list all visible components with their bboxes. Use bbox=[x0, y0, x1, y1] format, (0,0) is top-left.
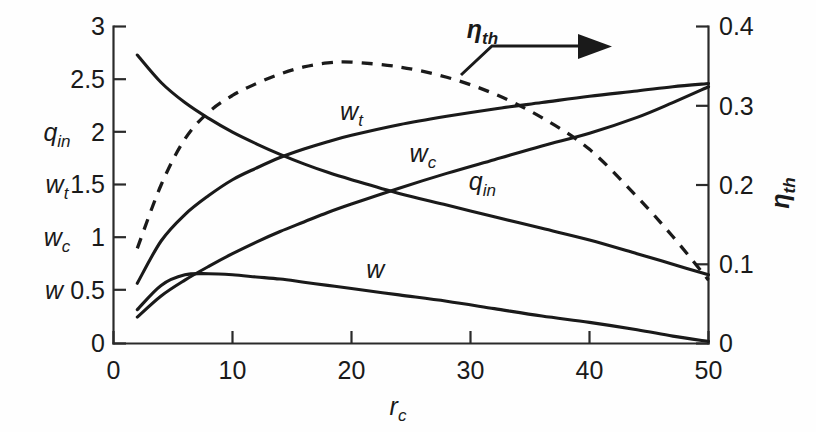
axis-title-rc-sub: c bbox=[398, 406, 407, 425]
curve-label-wt-sub: t bbox=[358, 111, 364, 130]
curve-label-qin-sub: in bbox=[483, 181, 496, 200]
ticks-right bbox=[696, 27, 709, 344]
ytick-right-0p1: 0.1 bbox=[719, 250, 754, 278]
curve-eta-th bbox=[137, 62, 708, 280]
curve-label-eta-th: ηth bbox=[467, 15, 498, 48]
axis-title-wt-sub: t bbox=[64, 184, 70, 203]
ytick-left-0p5: 0.5 bbox=[70, 276, 105, 304]
axis-title-left-stack: qin wt wc w bbox=[43, 118, 70, 304]
curve-label-wt-base: w bbox=[340, 97, 360, 125]
xtick-30: 30 bbox=[457, 356, 485, 384]
curve-w-t bbox=[137, 84, 708, 284]
axis-title-qin-base: q bbox=[43, 118, 57, 146]
axis-title-eta-base: η bbox=[766, 193, 794, 208]
axis-title-wt: wt bbox=[46, 170, 70, 203]
tick-labels-bottom: 0 10 20 30 40 50 bbox=[107, 356, 723, 384]
xtick-40: 40 bbox=[576, 356, 604, 384]
ytick-right-0p2: 0.2 bbox=[719, 171, 754, 199]
ytick-left-2: 2 bbox=[91, 118, 105, 146]
axis-title-right: ηth bbox=[766, 177, 799, 208]
chart-plot-area: 3 2.5 2 1.5 1 0.5 0 0.4 0.3 0.2 0.1 0 0 … bbox=[0, 0, 816, 432]
arrow-head-icon bbox=[578, 34, 612, 59]
curve-w bbox=[137, 274, 708, 342]
ticks-bottom bbox=[114, 331, 709, 344]
axis-title-w: w bbox=[45, 276, 65, 304]
ytick-left-1: 1 bbox=[91, 223, 105, 251]
axis-title-wc-sub: c bbox=[62, 237, 71, 256]
axis-title-wc-base: w bbox=[44, 223, 64, 251]
curve-label-eta-base: η bbox=[467, 15, 482, 43]
ytick-left-1p5: 1.5 bbox=[70, 170, 105, 198]
xtick-50: 50 bbox=[695, 356, 723, 384]
curve-label-qin-base: q bbox=[469, 167, 483, 195]
ytick-left-2p5: 2.5 bbox=[70, 65, 105, 93]
chart-figure: 3 2.5 2 1.5 1 0.5 0 0.4 0.3 0.2 0.1 0 0 … bbox=[0, 0, 816, 432]
curve-label-wc-sub: c bbox=[428, 153, 437, 172]
axis-title-w-base: w bbox=[45, 276, 65, 304]
axis-title-wc: wc bbox=[44, 223, 71, 256]
ytick-right-0p3: 0.3 bbox=[719, 92, 754, 120]
axis-title-rc: rc bbox=[390, 392, 407, 425]
axis-title-eta-sub: th bbox=[780, 177, 799, 193]
axis-title-wt-base: w bbox=[46, 170, 66, 198]
axis-title-qin-sub: in bbox=[57, 132, 70, 151]
tick-labels-left: 3 2.5 2 1.5 1 0.5 0 bbox=[70, 12, 105, 357]
ytick-right-0: 0 bbox=[719, 329, 733, 357]
xtick-10: 10 bbox=[219, 356, 247, 384]
curve-label-wc-base: w bbox=[410, 139, 430, 167]
curve-label-w-t: wt bbox=[340, 97, 364, 130]
curve-label-w-c: wc bbox=[410, 139, 437, 172]
xtick-20: 20 bbox=[338, 356, 366, 384]
curves bbox=[137, 55, 708, 341]
axis-title-bottom: rc bbox=[390, 392, 407, 425]
curve-label-w-base: w bbox=[366, 255, 386, 283]
xtick-0: 0 bbox=[107, 356, 121, 384]
axis-title-eta-th: ηth bbox=[766, 177, 799, 208]
ytick-left-3: 3 bbox=[91, 12, 105, 40]
tick-labels-right: 0.4 0.3 0.2 0.1 0 bbox=[719, 12, 754, 357]
ytick-left-0: 0 bbox=[91, 329, 105, 357]
axis-title-qin: qin bbox=[43, 118, 70, 151]
curve-label-w: w bbox=[366, 255, 386, 283]
curve-label-q-in: qin bbox=[469, 167, 496, 200]
curve-labels: qin wt wc w ηth bbox=[340, 15, 498, 283]
ticks-left bbox=[114, 27, 127, 344]
ytick-right-0p4: 0.4 bbox=[719, 12, 754, 40]
